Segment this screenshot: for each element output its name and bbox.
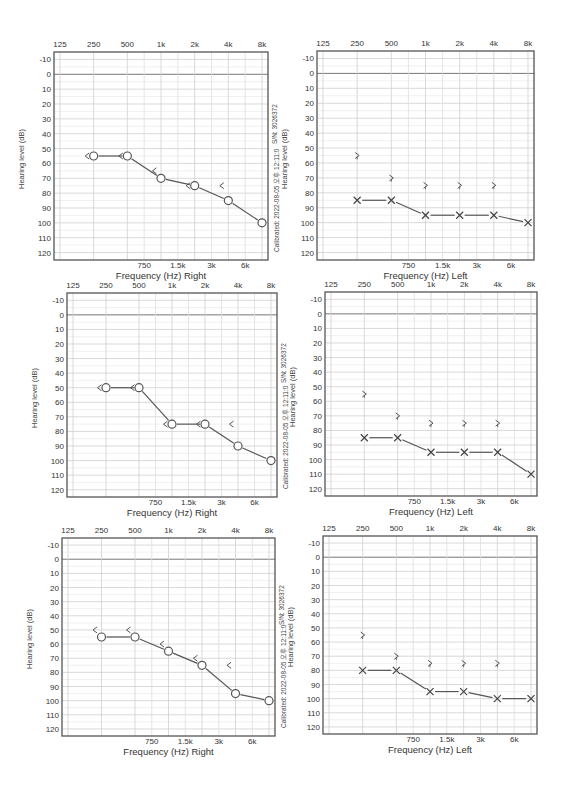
y-tick: 40 <box>292 129 314 138</box>
y-tick: 70 <box>292 173 314 182</box>
y-tick: 50 <box>298 623 320 632</box>
y-tick: 100 <box>300 455 322 464</box>
y-tick: 80 <box>300 426 322 435</box>
y-tick: 0 <box>42 310 64 319</box>
y-tick: 80 <box>292 188 314 197</box>
y-axis-title: Hearing level (dB) <box>25 609 34 669</box>
y-tick: 60 <box>37 640 59 649</box>
x-tick-top: 2k <box>201 281 209 290</box>
y-tick: 120 <box>292 248 314 257</box>
x-tick-top: 1k <box>426 524 434 533</box>
y-tick: 100 <box>292 218 314 227</box>
right-air-marker <box>232 690 240 698</box>
x-tick-top: 4k <box>234 281 242 290</box>
y-tick: 30 <box>29 114 51 123</box>
audiogram-4-left: 1252505001k2k4k8k7501.5k3k6k-10010203040… <box>325 292 537 496</box>
x-tick-top: 4k <box>490 39 498 48</box>
y-tick: 10 <box>300 324 322 333</box>
x-tick-bottom: 1.5k <box>435 261 450 270</box>
y-tick: 10 <box>29 85 51 94</box>
y-tick: 60 <box>292 158 314 167</box>
x-tick-top: 8k <box>265 526 273 535</box>
y-tick: 100 <box>298 694 320 703</box>
x-tick-bottom: 1.5k <box>439 735 454 744</box>
x-tick-top: 125 <box>61 526 74 535</box>
y-tick: 110 <box>29 233 51 242</box>
y-tick: 0 <box>298 553 320 562</box>
plot-area <box>325 292 537 496</box>
y-tick: 20 <box>42 340 64 349</box>
y-tick: 20 <box>37 583 59 592</box>
x-tick-top: 8k <box>267 281 275 290</box>
x-tick-top: 2k <box>459 524 467 533</box>
x-tick-top: 500 <box>391 280 404 289</box>
x-tick-bottom: 750 <box>145 737 158 746</box>
x-tick-top: 2k <box>460 280 468 289</box>
audiogram-6-left: 1252505001k2k4k8k7501.5k3k6k-10010203040… <box>323 536 537 734</box>
serial-number: S/N: 3026372 <box>278 585 285 625</box>
y-axis-title: Hearing level (dB) <box>17 129 26 189</box>
y-tick: 50 <box>42 383 64 392</box>
x-tick-top: 500 <box>390 524 403 533</box>
y-tick: 10 <box>37 569 59 578</box>
y-tick: 50 <box>292 144 314 153</box>
y-tick: 0 <box>300 309 322 318</box>
x-tick-top: 250 <box>87 40 100 49</box>
audiogram-3-right: 1252505001k2k4k8k7501.5k3k6k-10010203040… <box>67 293 277 497</box>
serial-number: S/N: 3026372 <box>280 343 287 383</box>
y-tick: 60 <box>29 159 51 168</box>
y-axis-title: Hearing level (dB) <box>286 607 295 667</box>
y-tick: 0 <box>37 555 59 564</box>
x-tick-top: 1k <box>157 40 165 49</box>
x-tick-bottom: 3k <box>215 737 223 746</box>
x-tick-bottom: 750 <box>406 735 419 744</box>
x-tick-top: 4k <box>231 526 239 535</box>
right-air-marker <box>102 384 110 392</box>
audiogram-2-left: 1252505001k2k4k8k7501.5k3k6k-10010203040… <box>317 51 534 260</box>
right-air-marker <box>234 442 242 450</box>
serial-number: S/N: 3026372 <box>271 104 278 144</box>
x-axis-title: Frequency (Hz) Left <box>389 506 473 517</box>
y-axis-title: Hearing level (dB) <box>30 368 39 428</box>
x-axis-title: Frequency (Hz) Right <box>127 507 217 518</box>
y-tick: 60 <box>42 398 64 407</box>
x-tick-top: 2k <box>198 526 206 535</box>
right-air-marker <box>168 420 176 428</box>
x-tick-bottom: 1.5k <box>440 497 455 506</box>
y-tick: 70 <box>29 174 51 183</box>
x-tick-top: 500 <box>128 526 141 535</box>
x-tick-bottom: 3k <box>207 261 215 270</box>
y-tick: 90 <box>37 682 59 691</box>
right-air-marker <box>201 420 209 428</box>
right-air-marker <box>198 661 206 669</box>
x-tick-top: 125 <box>316 39 329 48</box>
x-tick-top: 125 <box>322 524 335 533</box>
x-tick-top: 250 <box>356 524 369 533</box>
y-tick: 70 <box>42 412 64 421</box>
y-tick: -10 <box>298 539 320 548</box>
y-tick: 40 <box>298 609 320 618</box>
y-tick: 90 <box>42 442 64 451</box>
y-tick: 120 <box>42 485 64 494</box>
y-tick: 0 <box>29 70 51 79</box>
y-tick: 60 <box>300 397 322 406</box>
audiogram-5-right: 1252505001k2k4k8k7501.5k3k6k-10010203040… <box>62 538 275 736</box>
x-tick-top: 1k <box>427 280 435 289</box>
y-tick: 30 <box>42 354 64 363</box>
x-tick-top: 500 <box>121 40 134 49</box>
y-tick: 20 <box>300 339 322 348</box>
x-tick-bottom: 3k <box>217 498 225 507</box>
y-tick: 110 <box>37 710 59 719</box>
x-tick-bottom: 1.5k <box>178 737 193 746</box>
x-tick-bottom: 750 <box>408 497 421 506</box>
y-tick: 120 <box>29 248 51 257</box>
x-axis-title: Frequency (Hz) Right <box>123 746 213 757</box>
right-air-marker <box>267 457 275 465</box>
plot-area <box>67 293 277 497</box>
x-tick-bottom: 750 <box>402 261 415 270</box>
x-tick-bottom: 3k <box>477 497 485 506</box>
right-air-marker <box>157 174 165 182</box>
y-tick: -10 <box>29 55 51 64</box>
y-tick: 90 <box>300 441 322 450</box>
y-axis-title: Hearing level (dB) <box>280 129 289 189</box>
